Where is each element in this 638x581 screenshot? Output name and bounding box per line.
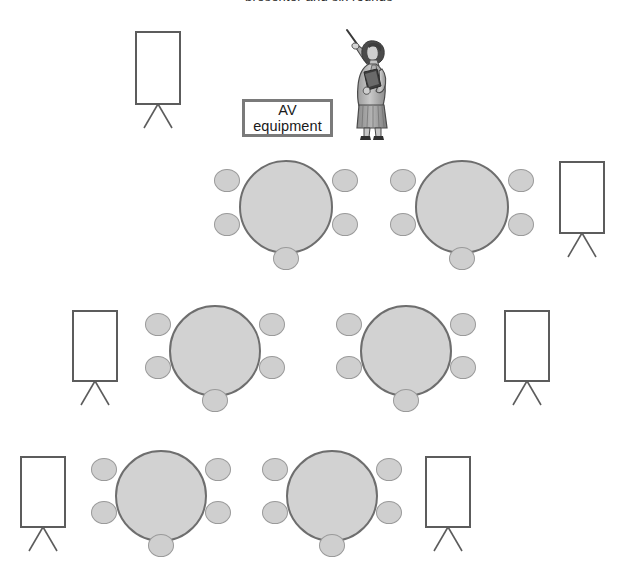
chair[interactable] [450,313,476,336]
presenter-figure [336,24,398,142]
chair[interactable] [91,501,117,524]
chair[interactable] [259,356,285,379]
flipchart-mid-right [504,310,550,405]
av-equipment-label: AV equipment [253,102,322,134]
chair[interactable] [202,389,228,412]
caption-remnant: presenter and six rounds [0,0,638,1]
chair[interactable] [376,501,402,524]
table-top [239,160,333,254]
flipchart-board [135,31,181,105]
table-top [286,450,378,542]
av-equipment-box[interactable]: AV equipment [242,99,333,137]
table-4[interactable] [336,305,476,411]
flipchart-bottom-right [425,456,471,551]
flipchart-board [504,310,550,382]
chair[interactable] [508,213,534,236]
table-5[interactable] [91,450,231,556]
chair[interactable] [332,213,358,236]
table-top [415,160,509,254]
chair[interactable] [450,356,476,379]
flipchart-board [72,310,118,382]
av-equipment-line2: equipment [253,118,322,134]
flipchart-legs [20,526,66,552]
flipchart-board [425,456,471,528]
flipchart-right-upper [559,161,605,257]
chair[interactable] [262,501,288,524]
chair[interactable] [145,356,171,379]
chair[interactable] [273,247,299,270]
chair[interactable] [259,313,285,336]
flipchart-legs [425,526,471,552]
flipchart-legs [504,380,550,406]
presenter-icon [336,24,398,142]
chair[interactable] [332,169,358,192]
chair[interactable] [148,534,174,557]
table-2[interactable] [390,160,534,270]
chair[interactable] [508,169,534,192]
flipchart-legs [135,103,181,129]
chair[interactable] [145,313,171,336]
table-top [115,450,207,542]
chair[interactable] [336,356,362,379]
chair[interactable] [205,501,231,524]
chair[interactable] [449,247,475,270]
chair[interactable] [390,213,416,236]
chair[interactable] [336,313,362,336]
flipchart-board [20,456,66,528]
flipchart-mid-left [72,310,118,405]
flipchart-legs [72,380,118,406]
table-6[interactable] [262,450,402,556]
chair[interactable] [376,458,402,481]
flipchart-top-left [135,31,181,128]
chair[interactable] [390,169,416,192]
flipchart-bottom-left [20,456,66,551]
chair[interactable] [393,389,419,412]
table-3[interactable] [145,305,285,411]
table-1[interactable] [214,160,358,270]
room-layout-diagram: presenter and six rounds AV equipment [0,0,638,581]
chair[interactable] [262,458,288,481]
chair[interactable] [205,458,231,481]
av-equipment-line1: AV [278,102,296,118]
chair[interactable] [214,169,240,192]
chair[interactable] [91,458,117,481]
table-top [360,305,452,397]
chair[interactable] [319,534,345,557]
chair[interactable] [214,213,240,236]
table-top [169,305,261,397]
flipchart-board [559,161,605,234]
flipchart-legs [559,232,605,258]
